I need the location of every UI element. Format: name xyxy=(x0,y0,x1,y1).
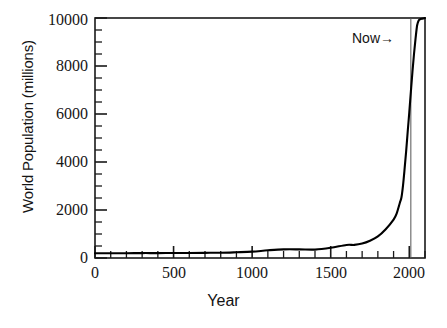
figure-root: World Population (millions) 10000 8000 6… xyxy=(0,0,447,328)
x-tick-label-2000: 2000 xyxy=(374,265,444,281)
now-annotation-label: Now→ xyxy=(352,30,394,46)
y-tick-label-2000: 2000 xyxy=(26,202,88,218)
x-tick-label-0: 0 xyxy=(60,265,130,281)
axes-frame xyxy=(95,18,425,258)
figure-caption-clipped xyxy=(4,318,244,328)
y-tick-label-8000: 8000 xyxy=(26,58,88,74)
x-axis-title: Year xyxy=(0,292,447,310)
plot-group xyxy=(95,18,425,258)
y-tick-label-6000: 6000 xyxy=(26,106,88,122)
x-tick-label-1000: 1000 xyxy=(217,265,287,281)
y-tick-label-0: 0 xyxy=(26,250,88,266)
x-tick-label-500: 500 xyxy=(139,265,209,281)
y-axis-title: World Population (millions) xyxy=(19,22,36,232)
y-minor-tick-group xyxy=(95,30,102,246)
x-tick-label-1500: 1500 xyxy=(296,265,366,281)
population-curve xyxy=(95,18,425,253)
y-tick-label-10000: 10000 xyxy=(26,12,88,28)
y-tick-label-4000: 4000 xyxy=(26,154,88,170)
